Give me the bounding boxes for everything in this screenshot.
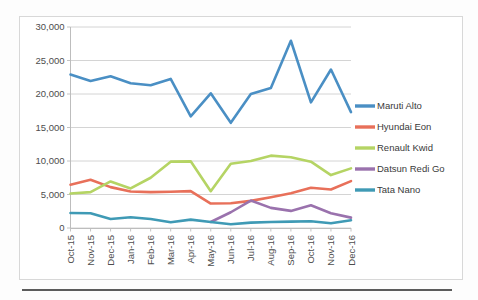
x-axis-tick-label: Oct-15	[65, 235, 76, 264]
series-line-maruti-alto	[71, 41, 352, 123]
x-axis-tick-label: May-16	[205, 235, 216, 267]
x-axis-labels: Oct-15Nov-15Dec-15Jan-16Feb-16Mar-16Apr-…	[65, 235, 357, 267]
x-axis-tick-label: Nov-15	[85, 235, 96, 266]
legend-label: Tata Nano	[377, 184, 420, 195]
x-axis-tick-label: Aug-16	[265, 235, 276, 266]
x-axis-tick-label: Dec-16	[346, 235, 357, 266]
legend: Maruti AltoHyundai EonRenault KwidDatsun…	[355, 100, 445, 195]
x-axis-tick-label: Feb-16	[145, 235, 156, 265]
y-axis-tick-label: 5,000	[41, 189, 65, 200]
y-axis-tick-label: 10,000	[35, 155, 64, 166]
x-axis-tick-label: Jul-16	[245, 235, 256, 261]
document-page: 30,00025,00020,00015,00010,0005,0000 Oct…	[0, 0, 478, 300]
series-line-tata-nano	[71, 213, 352, 224]
legend-label: Maruti Alto	[377, 100, 422, 111]
y-axis-tick-label: 30,000	[35, 21, 64, 32]
x-axis-tick-label: Dec-15	[105, 235, 116, 266]
legend-label: Hyundai Eon	[377, 121, 431, 132]
y-axis-labels: 30,00025,00020,00015,00010,0005,0000	[35, 21, 64, 233]
line-chart: 30,00025,00020,00015,00010,0005,0000 Oct…	[0, 0, 478, 300]
x-axis-tick-label: Sep-16	[285, 235, 296, 266]
gridlines-group	[67, 27, 351, 228]
x-axis-tick-label: Apr-16	[185, 235, 196, 264]
y-axis-tick-label: 25,000	[35, 55, 64, 66]
x-axis-tick-label: Mar-16	[165, 235, 176, 265]
series-lines-group	[71, 41, 352, 225]
y-axis-tick-label: 15,000	[35, 122, 64, 133]
x-axis-tick-label: Jan-16	[125, 235, 136, 264]
x-axis-tick-label: Jun-16	[225, 235, 236, 264]
y-axis-tick-label: 20,000	[35, 88, 64, 99]
x-axis-tick-label: Nov-16	[325, 235, 336, 266]
legend-label: Datsun Redi Go	[377, 163, 445, 174]
x-axis-tick-label: Oct-16	[305, 235, 316, 264]
legend-label: Renault Kwid	[377, 142, 433, 153]
y-axis-tick-label: 0	[59, 222, 64, 233]
